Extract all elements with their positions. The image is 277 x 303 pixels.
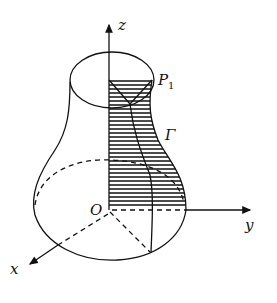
origin-label: O	[90, 203, 102, 218]
point-p1-label: P1	[158, 73, 174, 91]
y-axis-label: y	[245, 218, 253, 233]
shaded-region	[109, 81, 200, 205]
x-axis	[30, 245, 58, 264]
top-ellipse	[70, 52, 154, 108]
curve-gamma-label: Γ	[165, 128, 175, 143]
x-axis-label: x	[10, 262, 18, 277]
solid-diagram	[0, 0, 277, 303]
front-meridian	[130, 104, 152, 253]
diagram-canvas: z y x O P1 Γ	[0, 0, 277, 303]
z-axis-label: z	[118, 18, 126, 33]
